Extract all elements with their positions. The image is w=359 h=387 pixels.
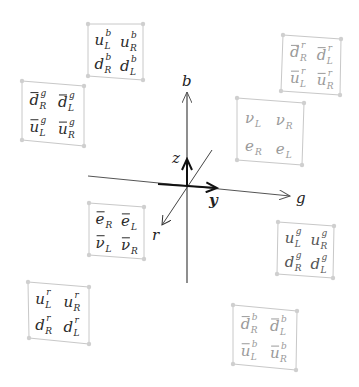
corner-dot bbox=[276, 220, 280, 224]
color-superscript: r bbox=[46, 287, 51, 297]
chirality-subscript: R bbox=[44, 326, 52, 336]
color-superscript: g bbox=[296, 226, 302, 236]
particle-label: d bbox=[58, 93, 68, 111]
corner-dot bbox=[339, 37, 343, 41]
corner-dot bbox=[275, 272, 279, 276]
particle-label: d bbox=[270, 317, 280, 335]
color-superscript: b bbox=[131, 54, 137, 64]
chirality-subscript: L bbox=[105, 244, 112, 254]
multiplet-antiquarks-blue: dbRdbLubLubR bbox=[231, 303, 299, 372]
color-superscript: r bbox=[46, 313, 51, 323]
chirality-subscript: R bbox=[279, 354, 287, 364]
particle-label: d bbox=[310, 255, 320, 273]
particle-label: u bbox=[120, 33, 130, 51]
chirality-subscript: R bbox=[294, 263, 302, 273]
particle-label: u bbox=[58, 120, 68, 138]
chirality-subscript: R bbox=[326, 81, 334, 91]
corner-dot bbox=[235, 158, 239, 162]
particle-label: d bbox=[317, 46, 327, 64]
particle-label: u bbox=[29, 118, 39, 136]
corner-dot bbox=[26, 280, 30, 284]
multiplet-quarks-green: ugLugRdgRdgL bbox=[275, 220, 336, 280]
particle-label: u bbox=[241, 342, 251, 360]
corner-dot bbox=[87, 201, 91, 205]
color-superscript: b bbox=[281, 341, 287, 351]
chirality-subscript: L bbox=[44, 300, 51, 310]
chirality-subscript: L bbox=[299, 79, 306, 89]
z-axis-label: z bbox=[171, 149, 180, 167]
particle-label: u bbox=[317, 71, 327, 89]
color-superscript: b bbox=[106, 52, 112, 62]
multiplet-leptons: νLνReReL bbox=[235, 96, 306, 167]
corner-dot bbox=[331, 276, 335, 280]
corner-dot bbox=[27, 336, 31, 340]
particle-label: d bbox=[95, 55, 105, 73]
g-axis-label: g bbox=[296, 189, 306, 207]
corner-dot bbox=[87, 342, 91, 346]
color-superscript: r bbox=[74, 290, 79, 300]
chirality-subscript: R bbox=[72, 303, 80, 313]
particle-label: d bbox=[241, 315, 251, 333]
chirality-subscript: R bbox=[130, 246, 138, 256]
chirality-subscript: L bbox=[319, 265, 326, 275]
chirality-subscript: L bbox=[129, 67, 136, 77]
color-superscript: r bbox=[328, 68, 333, 78]
chirality-subscript: R bbox=[299, 53, 307, 63]
corner-dot bbox=[87, 285, 91, 289]
chirality-subscript: R bbox=[285, 121, 293, 131]
color-superscript: g bbox=[321, 228, 327, 238]
corner-dot bbox=[142, 205, 146, 209]
particle-label: u bbox=[310, 231, 320, 249]
particle-label: d bbox=[35, 316, 45, 334]
color-superscript: g bbox=[69, 117, 75, 127]
multiplet-quarks-red: urLurRdrRdrL bbox=[26, 280, 91, 346]
color-superscript: r bbox=[328, 43, 333, 53]
corner-dot bbox=[300, 163, 304, 167]
chirality-subscript: L bbox=[38, 128, 45, 138]
particle-label: ν bbox=[121, 236, 130, 254]
color-superscript: r bbox=[301, 66, 306, 76]
chirality-subscript: L bbox=[67, 103, 74, 113]
particle-label: d bbox=[29, 91, 39, 109]
particle-label: e bbox=[121, 212, 130, 230]
color-superscript: g bbox=[296, 250, 302, 260]
color-superscript: b bbox=[106, 28, 112, 38]
corner-dot bbox=[231, 362, 235, 366]
chirality-subscript: L bbox=[326, 56, 333, 66]
particle-label: e bbox=[276, 140, 285, 158]
corner-dot bbox=[332, 224, 336, 228]
corner-dot bbox=[141, 22, 145, 26]
color-superscript: b bbox=[252, 312, 258, 322]
corner-dot bbox=[302, 101, 306, 105]
corner-dot bbox=[141, 78, 145, 82]
particle-label: e bbox=[96, 210, 105, 228]
corner-dot bbox=[294, 368, 298, 372]
r-axis-label: r bbox=[152, 226, 160, 244]
color-superscript: b bbox=[252, 339, 258, 349]
corner-dot bbox=[87, 253, 91, 257]
color-superscript: b bbox=[281, 314, 287, 324]
color-superscript: g bbox=[321, 252, 327, 262]
particle-label: d bbox=[63, 318, 73, 336]
color-superscript: r bbox=[74, 315, 79, 325]
chirality-subscript: R bbox=[67, 130, 75, 140]
corner-dot bbox=[20, 138, 24, 142]
corner-dot bbox=[279, 89, 283, 93]
multiplet-quarks-blue: ubLubRdbRdbL bbox=[86, 22, 145, 82]
b-axis-label: b bbox=[182, 72, 192, 90]
color-superscript: r bbox=[301, 40, 306, 50]
corner-dot bbox=[82, 144, 86, 148]
chirality-subscript: L bbox=[104, 41, 111, 51]
corner-dot bbox=[20, 79, 24, 83]
corner-dot bbox=[231, 303, 235, 307]
particle-label: u bbox=[285, 229, 295, 247]
particle-label: ν bbox=[96, 234, 105, 252]
corner-dot bbox=[281, 33, 285, 37]
particle-label: d bbox=[120, 57, 130, 75]
corner-dot bbox=[142, 257, 146, 261]
multiplet-antiquarks-green: dgRdgLugLugR bbox=[20, 79, 86, 148]
chirality-subscript: R bbox=[104, 65, 112, 75]
particle-label: d bbox=[285, 253, 295, 271]
color-superscript: g bbox=[40, 88, 46, 98]
corner-dot bbox=[338, 93, 342, 97]
